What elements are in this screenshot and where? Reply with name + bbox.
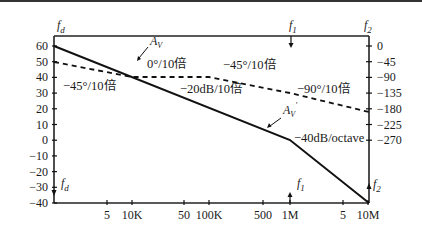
f2-bottom-label: f2	[373, 177, 381, 194]
phase-slope-flat: 0°/10倍	[147, 56, 187, 71]
f1-bottom-label: f1	[297, 176, 305, 193]
left-tick-label: 10	[36, 118, 48, 132]
fd-arrow-icon	[52, 190, 57, 196]
right-tick-label: −45	[377, 55, 396, 69]
left-axis-ticks: 6050403020100−10−20−30−40	[29, 39, 57, 210]
fd-bottom-label: fd	[61, 176, 69, 193]
x-tick-label: 100K	[196, 208, 223, 222]
left-tick-label: −20	[29, 165, 48, 179]
left-tick-label: 0	[42, 133, 48, 147]
right-axis-ticks: 0−45−90−135−180−225−270	[366, 39, 402, 147]
bode-plot: 6050403020100−10−20−30−40 0−45−90−135−18…	[0, 0, 422, 226]
fd-top-label: fd	[57, 18, 65, 35]
x-tick-label: 1M	[282, 208, 299, 222]
left-tick-label: 50	[36, 55, 48, 69]
av-prime-pointer	[270, 118, 281, 126]
f2-arrow-icon	[367, 183, 372, 189]
x-tick-label: 10M	[357, 208, 380, 222]
phase-slope-mid: −45°/10倍	[223, 57, 277, 72]
f1-top-label: f1	[289, 18, 297, 35]
right-tick-label: −225	[377, 118, 402, 132]
x-tick-label: 50	[178, 208, 190, 222]
right-tick-label: −135	[377, 86, 402, 100]
right-tick-label: 0	[377, 39, 383, 53]
left-tick-label: 20	[36, 102, 48, 116]
gain-curve	[54, 46, 369, 203]
right-tick-label: −180	[377, 102, 402, 116]
right-tick-label: −90	[377, 70, 396, 84]
left-tick-label: 40	[36, 70, 48, 84]
left-tick-label: −10	[29, 149, 48, 163]
x-tick-label: 500	[254, 208, 272, 222]
right-tick-label: −270	[377, 133, 402, 147]
gain-slope-20db: −20dB/10倍	[180, 81, 243, 96]
left-tick-label: 30	[36, 86, 48, 100]
x-tick-label: 10K	[122, 208, 143, 222]
left-tick-label: 60	[36, 39, 48, 53]
x-tick-label: 5	[104, 208, 110, 222]
x-tick-label: 5	[340, 208, 346, 222]
f2-top-label: f2	[364, 18, 372, 35]
gain-slope-40db: −40dB/octave	[294, 131, 365, 145]
f1-down-arrow-icon	[289, 43, 294, 48]
phase-slope-right: −90°/10倍	[297, 81, 351, 96]
f1-up-arrow-icon	[288, 192, 293, 197]
phase-slope-left: −45°/10倍	[63, 78, 117, 93]
left-tick-label: −30	[29, 180, 48, 194]
left-tick-label: −40	[29, 196, 48, 210]
av-prime-label: AV'	[282, 100, 298, 119]
